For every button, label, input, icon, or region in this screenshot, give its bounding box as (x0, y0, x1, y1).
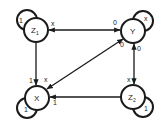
edge-y-z2-bidirectional: 0 x (127, 44, 141, 84)
edge-z2-x-label: 1 (53, 99, 57, 106)
node-x: X (25, 86, 49, 110)
self-loop-x-label: 1 (24, 106, 28, 113)
node-y: Y (121, 19, 145, 43)
edge-z2-x: 1 (50, 97, 121, 106)
node-y-label: Y (130, 27, 136, 36)
state-diagram: 1 x 1 1 x 0 1 x 0 0 x 1 Z1 (0, 0, 165, 124)
edge-z1-x: 1 (29, 42, 36, 85)
edge-z1-y-bidirectional: x 0 (49, 19, 120, 30)
edge-z1-x-label: 1 (29, 77, 33, 84)
edge-z1-y-label: 0 (113, 19, 117, 26)
self-loop-y-label: x (144, 15, 148, 22)
node-z2: Z2 (121, 85, 145, 109)
node-z1: Z1 (24, 18, 48, 42)
edge-z2-y-label: 0 (137, 45, 141, 52)
edge-x-y-label: 0 (120, 41, 124, 48)
self-loop-z2-label: 1 (144, 105, 148, 112)
self-loop-z1-label: 1 (19, 17, 23, 24)
edge-y-z1-label: x (51, 20, 55, 27)
edge-x-y-bidirectional: x 0 (44, 39, 124, 89)
node-x-label: X (34, 94, 40, 103)
edge-y-z2-label: x (127, 76, 131, 83)
edge-y-x-label: x (44, 76, 48, 83)
